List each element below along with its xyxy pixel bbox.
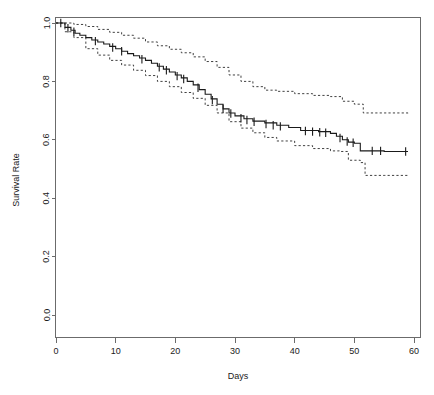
y-axis-tick-label: 0.0 bbox=[42, 309, 52, 322]
x-axis-tick-label: 30 bbox=[230, 346, 240, 356]
x-axis-tick-label: 40 bbox=[290, 346, 300, 356]
y-axis-tick-label: 0.6 bbox=[42, 134, 52, 147]
x-axis-tick-label: 60 bbox=[409, 346, 419, 356]
x-axis-tick-label: 0 bbox=[53, 346, 58, 356]
y-axis-tick-label: 0.2 bbox=[42, 250, 52, 263]
x-axis-title: Days bbox=[228, 371, 249, 381]
y-axis-tick-label: 0.4 bbox=[42, 192, 52, 205]
y-axis-tick-label: 0.8 bbox=[42, 75, 52, 88]
y-axis-title: Survival Rate bbox=[11, 153, 21, 207]
x-axis-tick-label: 10 bbox=[111, 346, 121, 356]
plot-background bbox=[0, 0, 434, 395]
x-axis-tick-label: 20 bbox=[170, 346, 180, 356]
plot-canvas: 0.00.20.40.60.81.0 0102030405060 Days Su… bbox=[0, 0, 434, 395]
x-axis-tick-label: 50 bbox=[349, 346, 359, 356]
y-axis-tick-label: 1.0 bbox=[42, 17, 52, 30]
survival-plot-figure: 0.00.20.40.60.81.0 0102030405060 Days Su… bbox=[0, 0, 434, 395]
